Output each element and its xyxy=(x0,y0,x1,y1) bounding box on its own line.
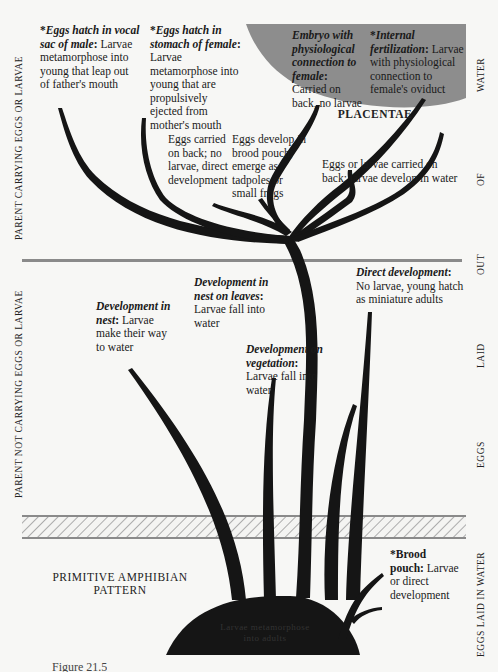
node-vocal-sac: *Eggs hatch in vocal sac of male: Larvae… xyxy=(40,24,140,92)
node-eggs-on-back: Eggs carried on back; no larvae, direct … xyxy=(168,133,228,187)
main-trunk xyxy=(282,236,318,598)
branch-brood-pouch xyxy=(338,573,384,640)
branch-direct-development xyxy=(346,312,372,600)
left-axis-upper-label: PARENT CARRYING EGGS OR LARVAE xyxy=(14,56,24,240)
node-eggs-or-larvae-back: Eggs or larvae carried on back; larvae d… xyxy=(322,158,462,185)
right-axis-laid: LAID xyxy=(476,343,486,368)
node-vegetation: Development on vegetation: Larvae fall i… xyxy=(246,343,326,397)
right-axis-eggs: EGGS xyxy=(476,441,486,468)
figure-caption: Figure 21.5 xyxy=(52,660,107,672)
right-axis-out: OUT xyxy=(476,254,486,275)
mound-label: Larvae metamorphose into adults xyxy=(210,622,320,644)
left-axis-lower-label: PARENT NOT CARRYING EGGS OR LARVAE xyxy=(14,290,24,498)
right-axis-eggs-laid-in-water: EGGS LAID IN WATER xyxy=(476,552,486,657)
water-divider-line xyxy=(22,259,462,262)
node-brood-pouch-upper: Eggs develop in brood pouch; emerge as t… xyxy=(232,133,308,201)
node-direct-development: Direct development: No larvae, young hat… xyxy=(356,266,466,307)
primitive-pattern-label: PRIMITIVE AMPHIBIAN PATTERN xyxy=(40,571,200,597)
node-brood-pouch-lower: *Brood pouch: Larvae or direct developme… xyxy=(390,548,460,602)
node-internal-fertilization: *Internal fertilization: Larvae with phy… xyxy=(370,29,466,97)
water-hatched-band xyxy=(22,516,466,538)
node-nest-on-leaves: Development in nest on leaves: Larvae fa… xyxy=(194,276,274,330)
node-nest: Development in nest: Larvae make their w… xyxy=(96,300,176,354)
placentae-label: PLACENTAE xyxy=(330,108,420,120)
node-embryo-connection: Embryo with physiological connection to … xyxy=(292,29,364,110)
right-axis-water: WATER xyxy=(476,58,486,92)
branch-nest-on-leaves xyxy=(263,378,276,600)
branch-nest xyxy=(128,368,246,600)
right-axis-of: OF xyxy=(476,173,486,186)
node-stomach: *Eggs hatch in stomach of female: Larvae… xyxy=(150,24,242,132)
